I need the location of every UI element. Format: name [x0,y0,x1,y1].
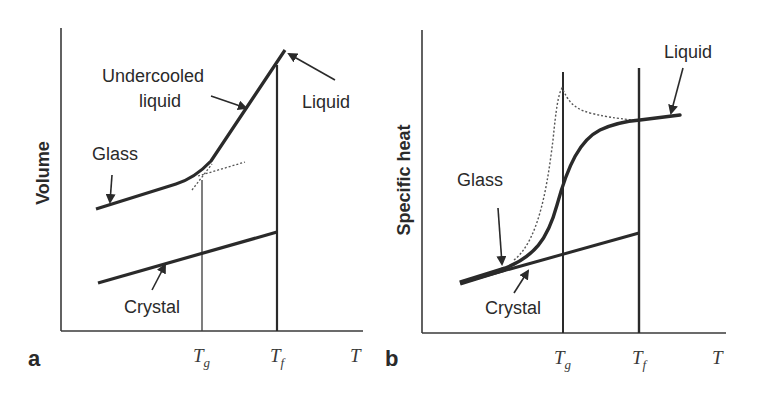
undercooled-arrow [211,96,246,108]
x-axis-label: T [712,347,724,368]
tick-tg: Tg [193,345,211,370]
tick-tf-sub: f [643,357,649,372]
crystal-line [98,232,277,283]
panel-b: Liquid Glass Crystal Specific heat Tg Tf… [385,30,726,372]
figure-svg: Undercooled liquid Liquid Glass Crystal … [0,0,760,394]
tick-tf-sub: f [281,355,287,370]
tick-tf: Tf [632,347,649,372]
liquid-arrow [289,54,335,80]
tick-tg-sub: g [204,355,211,370]
panel-label-b: b [385,346,398,371]
heating-overshoot-curve [514,88,632,260]
tick-tf: Tf [270,345,287,370]
liquid-label: Liquid [302,92,350,112]
glass-arrow [498,208,502,264]
x-axis-label: T [350,345,362,366]
crystal-label: Crystal [124,297,180,317]
y-axis-label: Specific heat [394,124,414,235]
crystal-label: Crystal [485,298,541,318]
y-axis-label: Volume [33,141,53,205]
undercooled-label-line2: liquid [139,91,181,111]
undercooled-label-line1: Undercooled [102,66,204,86]
glass-base-line [460,269,505,283]
glass-label: Glass [92,144,138,164]
liquid-label: Liquid [664,42,712,62]
crystal-arrow [514,271,528,293]
tick-tg-sub: g [565,357,572,372]
panel-a: Undercooled liquid Liquid Glass Crystal … [28,28,363,371]
crystal-arrow [152,265,165,290]
panel-label-a: a [28,346,41,371]
glass-arrow [110,175,112,202]
glass-label: Glass [457,170,503,190]
figure: Undercooled liquid Liquid Glass Crystal … [0,0,760,394]
liquid-arrow [671,68,683,113]
tick-tg: Tg [554,347,572,372]
